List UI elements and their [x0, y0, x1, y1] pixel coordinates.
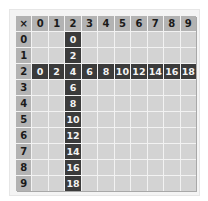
empty-cell	[181, 128, 196, 143]
empty-cell	[49, 144, 64, 159]
empty-cell	[98, 112, 113, 127]
empty-cell	[32, 160, 47, 175]
empty-cell	[181, 144, 196, 159]
empty-cell	[98, 80, 113, 95]
empty-cell	[49, 160, 64, 175]
empty-cell	[32, 176, 47, 191]
empty-cell	[98, 144, 113, 159]
highlighted-cell: 0	[65, 32, 80, 47]
highlighted-cell: 2	[65, 48, 80, 63]
empty-cell	[82, 32, 97, 47]
row-header: 7	[16, 144, 31, 159]
empty-cell	[32, 144, 47, 159]
empty-cell	[164, 176, 179, 191]
empty-cell	[82, 112, 97, 127]
empty-cell	[49, 176, 64, 191]
empty-cell	[49, 32, 64, 47]
empty-cell	[82, 176, 97, 191]
empty-cell	[98, 160, 113, 175]
empty-cell	[82, 144, 97, 159]
empty-cell	[98, 176, 113, 191]
empty-cell	[49, 112, 64, 127]
column-header: 6	[131, 16, 146, 31]
empty-cell	[98, 128, 113, 143]
row-header: 3	[16, 80, 31, 95]
empty-cell	[115, 112, 130, 127]
empty-cell	[148, 128, 163, 143]
column-header: 4	[98, 16, 113, 31]
empty-cell	[164, 48, 179, 63]
empty-cell	[115, 128, 130, 143]
row-header: 0	[16, 32, 31, 47]
highlighted-cell: 12	[131, 64, 146, 79]
corner-multiply-sign: ×	[16, 16, 31, 31]
column-header: 1	[49, 16, 64, 31]
empty-cell	[148, 176, 163, 191]
empty-cell	[164, 32, 179, 47]
column-header: 5	[115, 16, 130, 31]
highlighted-cell: 18	[181, 64, 196, 79]
empty-cell	[164, 144, 179, 159]
row-header: 6	[16, 128, 31, 143]
empty-cell	[115, 32, 130, 47]
column-header: 0	[32, 16, 47, 31]
empty-cell	[148, 144, 163, 159]
column-header: 7	[148, 16, 163, 31]
empty-cell	[32, 80, 47, 95]
empty-cell	[148, 32, 163, 47]
empty-cell	[164, 128, 179, 143]
highlighted-cell: 18	[65, 176, 80, 191]
empty-cell	[181, 112, 196, 127]
empty-cell	[181, 96, 196, 111]
empty-cell	[82, 128, 97, 143]
empty-cell	[131, 112, 146, 127]
highlighted-cell: 6	[65, 80, 80, 95]
empty-cell	[98, 48, 113, 63]
highlighted-cell: 6	[82, 64, 97, 79]
highlighted-cell: 16	[164, 64, 179, 79]
empty-cell	[82, 96, 97, 111]
empty-cell	[98, 32, 113, 47]
empty-cell	[131, 32, 146, 47]
empty-cell	[115, 176, 130, 191]
empty-cell	[181, 80, 196, 95]
empty-cell	[148, 96, 163, 111]
empty-cell	[82, 80, 97, 95]
highlighted-cell: 0	[32, 64, 47, 79]
empty-cell	[131, 128, 146, 143]
empty-cell	[131, 144, 146, 159]
highlighted-cell: 2	[49, 64, 64, 79]
empty-cell	[49, 48, 64, 63]
row-header: 5	[16, 112, 31, 127]
column-header: 8	[164, 16, 179, 31]
empty-cell	[164, 96, 179, 111]
empty-cell	[32, 112, 47, 127]
empty-cell	[148, 48, 163, 63]
highlighted-cell: 14	[65, 144, 80, 159]
row-header: 9	[16, 176, 31, 191]
highlighted-cell: 10	[65, 112, 80, 127]
empty-cell	[115, 144, 130, 159]
empty-cell	[32, 48, 47, 63]
empty-cell	[32, 96, 47, 111]
column-header: 9	[181, 16, 196, 31]
empty-cell	[131, 96, 146, 111]
highlighted-cell: 16	[65, 160, 80, 175]
highlighted-cell: 8	[98, 64, 113, 79]
empty-cell	[181, 176, 196, 191]
highlighted-cell: 14	[148, 64, 163, 79]
row-header: 4	[16, 96, 31, 111]
empty-cell	[115, 48, 130, 63]
column-header: 3	[82, 16, 97, 31]
highlighted-cell: 10	[115, 64, 130, 79]
row-header: 1	[16, 48, 31, 63]
empty-cell	[181, 32, 196, 47]
row-header: 2	[16, 64, 31, 79]
empty-cell	[32, 32, 47, 47]
highlighted-cell: 8	[65, 96, 80, 111]
empty-cell	[115, 160, 130, 175]
highlighted-cell: 12	[65, 128, 80, 143]
empty-cell	[115, 80, 130, 95]
empty-cell	[82, 48, 97, 63]
empty-cell	[131, 80, 146, 95]
